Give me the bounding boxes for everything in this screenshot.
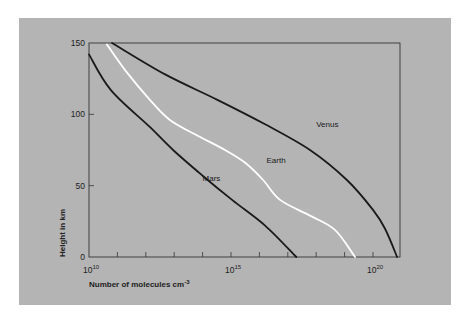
x-axis-title: Number of molecules cm-3 [89, 279, 190, 289]
x-tick-label-exponent: 20 [376, 264, 383, 270]
chart: 101010151020 050100150 MarsEarthVenus Nu… [0, 0, 468, 317]
x-tick-label: 1020 [367, 264, 384, 275]
y-axis-ticks: 050100150 [71, 38, 94, 262]
y-axis-title: Height in km [58, 209, 67, 257]
y-tick-label: 150 [71, 38, 85, 48]
y-tick-label: 0 [80, 252, 85, 262]
x-tick-label: 1015 [225, 264, 242, 275]
plot-frame [89, 43, 400, 257]
x-axis-ticks: 101010151020 [83, 252, 384, 275]
x-tick-label-base: 10 [367, 265, 377, 275]
series-label-mars: Mars [203, 174, 221, 183]
series-line-earth [107, 44, 355, 257]
y-tick-label: 100 [71, 109, 85, 119]
x-tick-label-exponent: 10 [92, 264, 99, 270]
x-tick-label-exponent: 15 [234, 264, 241, 270]
series-label-venus: Venus [316, 120, 338, 129]
series-line-venus [112, 43, 397, 257]
x-axis-title-exponent: -3 [184, 279, 190, 285]
x-tick-label: 1010 [83, 264, 100, 275]
x-tick-label-base: 10 [83, 265, 93, 275]
y-tick-label: 50 [76, 181, 86, 191]
series-label-earth: Earth [267, 156, 286, 165]
series-line-mars [89, 54, 296, 257]
series-labels: MarsEarthVenus [203, 120, 339, 183]
series-curves [89, 43, 397, 257]
x-axis-title-text: Number of molecules cm [89, 280, 184, 289]
x-tick-label-base: 10 [225, 265, 235, 275]
